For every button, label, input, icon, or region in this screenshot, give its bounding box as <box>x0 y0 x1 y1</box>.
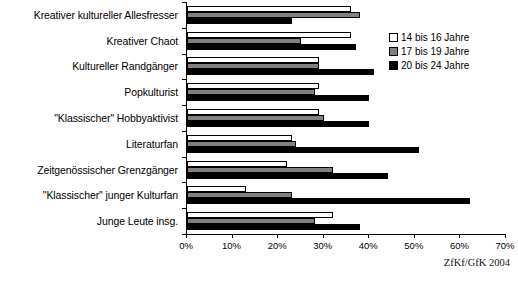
legend-swatch-icon <box>389 33 398 42</box>
legend: 14 bis 16 Jahre 17 bis 19 Jahre 20 bis 2… <box>389 32 469 71</box>
bar <box>187 18 292 24</box>
category-label: Junge Leute insg. <box>0 208 182 234</box>
x-axis-tick <box>323 234 324 238</box>
category-label: "Klassischer" junger Kulturfan <box>0 182 182 208</box>
legend-item: 14 bis 16 Jahre <box>389 32 469 43</box>
x-axis-tick-label: 50% <box>404 240 423 251</box>
bar <box>187 147 419 153</box>
x-axis-tick-label: 40% <box>359 240 378 251</box>
category-label: "Klassischer" Hobbyaktivist <box>0 105 182 131</box>
x-axis-tick <box>505 234 506 238</box>
x-axis-tick-label: 60% <box>450 240 469 251</box>
bar <box>187 121 369 127</box>
bar <box>187 198 470 204</box>
x-axis-ticks <box>186 234 505 239</box>
bar-group <box>187 208 506 234</box>
x-axis-tick <box>186 234 187 238</box>
legend-item-label: 20 bis 24 Jahre <box>401 60 469 71</box>
bar <box>187 173 388 179</box>
bar-group <box>187 2 506 28</box>
x-axis-tick <box>368 234 369 238</box>
bar-group <box>187 79 506 105</box>
x-axis-tick <box>414 234 415 238</box>
bar <box>187 44 356 50</box>
bar-group <box>187 157 506 183</box>
source-note: ZfKf/GfK 2004 <box>444 257 510 268</box>
x-axis-tick-label: 0% <box>179 240 193 251</box>
category-label: Zeitgenössischer Grenzgänger <box>0 157 182 183</box>
bar <box>187 69 374 75</box>
category-label: Popkulturist <box>0 79 182 105</box>
legend-item-label: 17 bis 19 Jahre <box>401 46 469 57</box>
x-axis-tick-label: 20% <box>268 240 287 251</box>
x-axis-tick-label: 10% <box>222 240 241 251</box>
bar-group <box>187 131 506 157</box>
x-axis-tick-labels: 0%10%20%30%40%50%60%70% <box>186 240 505 254</box>
category-label: Kultureller Randgänger <box>0 54 182 80</box>
x-axis-tick <box>459 234 460 238</box>
x-axis-tick <box>232 234 233 238</box>
legend-swatch-icon <box>389 61 398 70</box>
x-axis-tick-label: 70% <box>495 240 514 251</box>
bar-chart: Kreativer kultureller AllesfresserKreati… <box>0 0 518 281</box>
x-axis-tick-label: 30% <box>313 240 332 251</box>
bar-group <box>187 182 506 208</box>
legend-item: 17 bis 19 Jahre <box>389 46 469 57</box>
legend-item-label: 14 bis 16 Jahre <box>401 32 469 43</box>
bar <box>187 95 369 101</box>
category-label: Literaturfan <box>0 131 182 157</box>
category-label: Kreativer Chaot <box>0 28 182 54</box>
legend-swatch-icon <box>389 47 398 56</box>
bar-group <box>187 105 506 131</box>
bar <box>187 224 360 230</box>
category-axis-labels: Kreativer kultureller AllesfresserKreati… <box>0 2 182 234</box>
category-label: Kreativer kultureller Allesfresser <box>0 2 182 28</box>
x-axis-tick <box>277 234 278 238</box>
legend-item: 20 bis 24 Jahre <box>389 60 469 71</box>
